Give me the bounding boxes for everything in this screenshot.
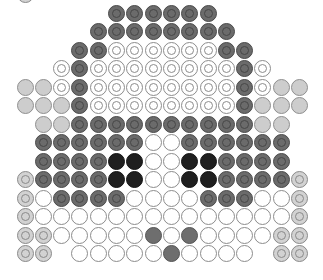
bead-white-ring: [200, 42, 217, 59]
bead-dark-gray-ring: [71, 79, 88, 96]
bead-white: [163, 134, 180, 151]
bead-dark-gray-ring: [236, 116, 253, 133]
bead-white-ring: [163, 79, 180, 96]
bead-dark-gray-ring: [53, 171, 70, 188]
bead-dark-gray-ring: [218, 153, 235, 170]
bead-white-ring: [200, 97, 217, 114]
bead-white-ring: [200, 60, 217, 77]
bead-dark-gray-ring: [126, 134, 143, 151]
bead-light-gray-ring: [273, 227, 290, 244]
bead-white: [71, 227, 88, 244]
bead-light-gray: [273, 97, 290, 114]
bead-light-gray-ring: [273, 245, 290, 262]
bead-white: [126, 227, 143, 244]
bead-light-gray: [35, 116, 52, 133]
bead-dark-gray-ring: [71, 190, 88, 207]
bead-light-gray-ring: [17, 171, 34, 188]
bead-white: [181, 208, 198, 225]
bead-white-ring: [90, 79, 107, 96]
bead-dark-gray-ring: [236, 171, 253, 188]
bead-black: [108, 153, 125, 170]
bead-white-ring: [218, 60, 235, 77]
bead-dark-gray-ring: [145, 5, 162, 22]
bead-black: [200, 153, 217, 170]
bead-white: [218, 245, 235, 262]
bead-white: [145, 171, 162, 188]
bead-dark-gray-ring: [71, 97, 88, 114]
bead-white: [145, 190, 162, 207]
bead-white: [218, 227, 235, 244]
bead-dark-gray-ring: [71, 42, 88, 59]
bead-white-ring: [90, 97, 107, 114]
bead-dark-gray-ring: [90, 42, 107, 59]
bead-dark-gray-ring: [236, 97, 253, 114]
bead-white-ring: [218, 79, 235, 96]
bead-light-gray-ring: [291, 171, 308, 188]
bead-light-gray: [273, 116, 290, 133]
bead-dark-gray-ring: [53, 190, 70, 207]
bead-white-ring: [53, 60, 70, 77]
bead-white: [163, 171, 180, 188]
bead-black: [200, 171, 217, 188]
bead-dark-gray-ring: [218, 134, 235, 151]
bead-white-ring: [254, 79, 271, 96]
bead-dark-gray-ring: [236, 153, 253, 170]
bead-white: [145, 208, 162, 225]
bead-white-ring: [163, 42, 180, 59]
bead-white: [71, 245, 88, 262]
bead-white-ring: [200, 79, 217, 96]
bead-white: [181, 245, 198, 262]
bead-white-ring: [108, 79, 125, 96]
bead-black: [181, 153, 198, 170]
bead-dark-gray-ring: [181, 134, 198, 151]
bead-dark-gray-ring: [181, 23, 198, 40]
bead-dark-gray-ring: [254, 134, 271, 151]
bead-dark-gray-ring: [236, 60, 253, 77]
bead-white: [254, 208, 271, 225]
bead-light-gray-ring: [17, 190, 34, 207]
bead-black: [126, 153, 143, 170]
bead-dark-gray-ring: [145, 116, 162, 133]
bead-white-ring: [145, 42, 162, 59]
bead-light-gray-ring: [17, 0, 34, 3]
bead-white: [126, 190, 143, 207]
bead-white-ring: [163, 60, 180, 77]
bead-white: [90, 208, 107, 225]
bead-dark-gray-ring: [71, 60, 88, 77]
bead-light-gray-ring: [291, 190, 308, 207]
bead-black: [126, 171, 143, 188]
bead-white: [145, 245, 162, 262]
bead-gray: [163, 245, 180, 262]
bead-white: [35, 208, 52, 225]
bead-light-gray: [291, 97, 308, 114]
bead-white: [90, 227, 107, 244]
bead-dark-gray-ring: [71, 134, 88, 151]
bead-dark-gray-ring: [236, 79, 253, 96]
bead-dark-gray-ring: [236, 190, 253, 207]
bead-white-ring: [108, 42, 125, 59]
bead-gray: [145, 227, 162, 244]
bead-white: [200, 227, 217, 244]
bead-dark-gray-ring: [163, 116, 180, 133]
bead-white-ring: [108, 97, 125, 114]
bead-light-gray: [254, 97, 271, 114]
bead-light-gray: [291, 79, 308, 96]
bead-white: [163, 227, 180, 244]
bead-white-ring: [145, 79, 162, 96]
bead-white-ring: [126, 60, 143, 77]
bead-dark-gray-ring: [90, 171, 107, 188]
bead-dark-gray-ring: [273, 134, 290, 151]
bead-white: [53, 227, 70, 244]
bead-dark-gray-ring: [181, 116, 198, 133]
bead-white-ring: [90, 60, 107, 77]
bead-white: [108, 227, 125, 244]
bead-dark-gray-ring: [273, 171, 290, 188]
bead-light-gray-ring: [291, 245, 308, 262]
bead-gray: [181, 227, 198, 244]
bead-dark-gray-ring: [218, 171, 235, 188]
bead-pattern-board: [0, 0, 323, 280]
bead-dark-gray-ring: [200, 5, 217, 22]
bead-white: [126, 245, 143, 262]
bead-light-gray: [17, 97, 34, 114]
bead-dark-gray-ring: [254, 153, 271, 170]
